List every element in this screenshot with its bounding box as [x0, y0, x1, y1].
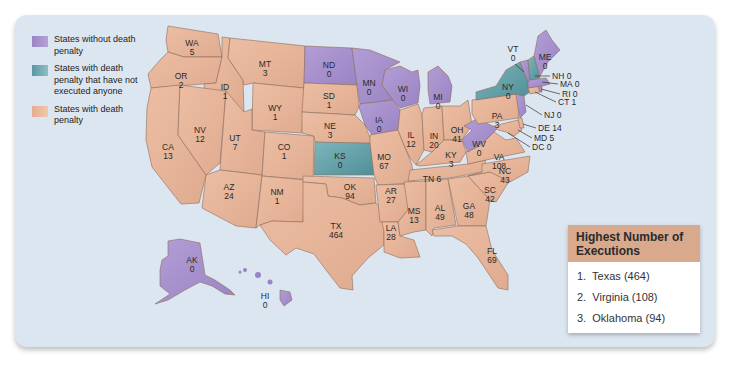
label-tn: TN 6	[423, 174, 442, 184]
callout-dc: DC 0	[532, 142, 552, 152]
top-executions-item: 2. Virginia (108)	[568, 287, 700, 308]
top-executions-title: Highest Number of Executions	[568, 225, 700, 262]
label-oh: OH41	[451, 125, 464, 144]
state-or[interactable]	[148, 52, 222, 88]
state-nm[interactable]	[256, 176, 305, 228]
hi-island	[239, 271, 242, 274]
label-ca: CA13	[162, 142, 174, 161]
label-in: IN20	[429, 131, 439, 150]
top-executions-item: 1. Texas (464)	[568, 266, 700, 287]
top-executions-box: Highest Number of Executions 1. Texas (4…	[568, 225, 700, 333]
label-tx: TX464	[329, 221, 343, 240]
label-hi: HI0	[261, 291, 270, 310]
label-nv: NV12	[194, 125, 206, 144]
label-az: AZ24	[224, 182, 235, 201]
label-sc: SC42	[484, 185, 496, 204]
label-il: IL12	[406, 130, 416, 149]
hi-island	[255, 272, 261, 278]
label-fl: FL69	[487, 246, 497, 265]
top-executions-item: 3. Oklahoma (94)	[568, 308, 700, 329]
label-al: AL49	[435, 203, 446, 222]
callout-ct: CT 1	[558, 97, 577, 107]
label-ga: GA48	[463, 201, 476, 220]
label-ok: OK94	[344, 182, 357, 201]
hi-island	[243, 268, 247, 272]
callout-de: DE 14	[538, 123, 562, 133]
hi-island	[268, 280, 273, 285]
label-vt: VT0	[508, 44, 519, 63]
state-ak[interactable]	[155, 239, 235, 304]
label-la: LA28	[386, 223, 397, 242]
callout-ma: MA 0	[560, 79, 580, 89]
state-hi[interactable]	[280, 290, 292, 306]
callout-nj: NJ 0	[544, 110, 562, 120]
state-co[interactable]	[262, 132, 314, 180]
state-ny[interactable]	[476, 62, 530, 100]
label-va: VA108	[492, 152, 506, 171]
label-ar: AR27	[385, 186, 397, 205]
